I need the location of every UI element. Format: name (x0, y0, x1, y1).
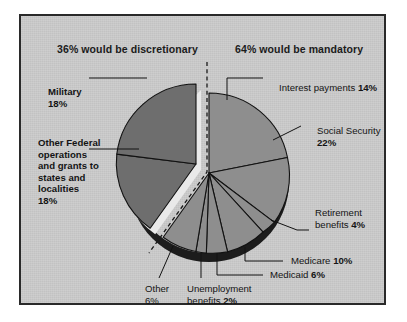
label-retirement-benefits-pct: 4% (351, 219, 365, 230)
label-military-name: Military (48, 86, 82, 97)
label-unemployment-benefits-l1: Unemployment (187, 283, 252, 294)
label-other-federal-l1: Other Federal (38, 137, 100, 148)
label-social-security-name: Social Security (317, 125, 380, 136)
label-military: Military 18% (48, 86, 82, 109)
mandatory-header: 64% would be mandatory (235, 43, 363, 55)
label-other-federal-l4: states and (38, 172, 85, 183)
label-retirement-benefits-l1: Retirement (315, 207, 362, 218)
slice-military (117, 84, 196, 164)
label-retirement-benefits: Retirement benefits 4% (315, 207, 365, 230)
label-medicare-name: Medicare (291, 255, 330, 266)
label-unemployment-benefits-pct: 2% (223, 295, 237, 306)
discretionary-header: 36% would be discretionary (57, 43, 198, 55)
label-retirement-benefits-l2: benefits (315, 219, 349, 230)
label-interest-payments-name: Interest payments (279, 82, 355, 93)
label-other: Other 6% (145, 283, 169, 306)
label-medicare-pct: 10% (333, 255, 352, 266)
label-other-federal: Other Federal operations and grants to s… (38, 137, 100, 207)
label-unemployment-benefits: Unemployment benefits 2% (187, 283, 252, 306)
label-other-federal-l5: localities (38, 183, 79, 194)
label-other-name: Other (145, 283, 169, 294)
chart-frame: 36% would be discretionary 64% would be … (19, 14, 386, 305)
label-interest-payments: Interest payments 14% (279, 82, 377, 94)
label-other-federal-l3: and grants to (38, 160, 99, 171)
label-medicaid-name: Medicaid (270, 269, 308, 280)
label-medicaid: Medicaid 6% (270, 269, 325, 281)
label-other-pct: 6% (145, 295, 159, 306)
label-medicaid-pct: 6% (311, 269, 325, 280)
label-social-security-pct: 22% (317, 137, 336, 148)
label-medicare: Medicare 10% (291, 255, 352, 267)
label-unemployment-benefits-l2: benefits (187, 295, 221, 306)
label-interest-payments-pct: 14% (358, 82, 377, 93)
label-social-security: Social Security 22% (317, 125, 380, 148)
label-other-federal-l2: operations (38, 149, 87, 160)
leader-other (159, 246, 173, 278)
label-other-federal-pct: 18% (38, 195, 57, 206)
label-military-pct: 18% (48, 98, 67, 109)
